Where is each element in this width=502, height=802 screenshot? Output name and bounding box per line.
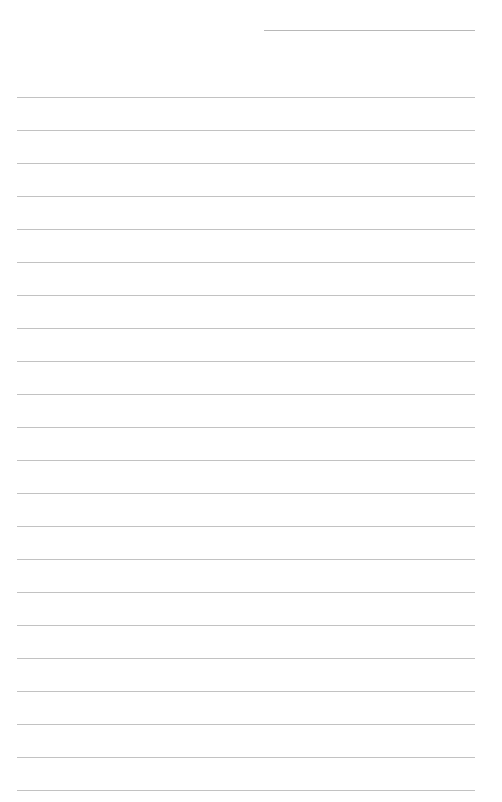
lined-paper-page — [0, 0, 502, 802]
ruled-line — [17, 196, 475, 197]
ruled-line — [17, 427, 475, 428]
ruled-line — [17, 460, 475, 461]
ruled-line — [17, 559, 475, 560]
ruled-line — [17, 592, 475, 593]
ruled-line — [17, 757, 475, 758]
ruled-line — [17, 394, 475, 395]
ruled-line — [17, 130, 475, 131]
ruled-line — [17, 229, 475, 230]
ruled-line — [17, 97, 475, 98]
ruled-line — [17, 361, 475, 362]
ruled-line — [17, 493, 475, 494]
ruled-line — [17, 724, 475, 725]
ruled-line — [17, 790, 475, 791]
ruled-line — [17, 526, 475, 527]
header-line — [264, 30, 475, 31]
ruled-line — [17, 658, 475, 659]
ruled-line — [17, 295, 475, 296]
ruled-line — [17, 691, 475, 692]
ruled-line — [17, 262, 475, 263]
ruled-line — [17, 625, 475, 626]
ruled-line — [17, 163, 475, 164]
ruled-line — [17, 328, 475, 329]
